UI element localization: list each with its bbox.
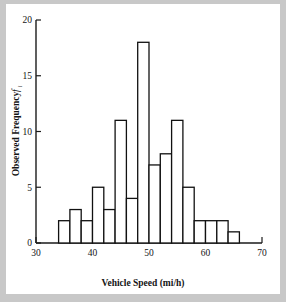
histogram-bars: [59, 42, 240, 243]
x-tick-label: 50: [144, 248, 154, 258]
x-axis-tick-labels: 3040506070: [31, 248, 267, 258]
y-axis-ticks: [36, 20, 41, 243]
histogram-bar: [194, 221, 205, 243]
figure-panel: 05101520 3040506070 Vehicle Speed (mi/h)…: [6, 4, 280, 294]
histogram-bar: [126, 198, 137, 243]
histogram-bar: [81, 221, 92, 243]
histogram-bar: [138, 42, 149, 243]
y-tick-label: 10: [23, 127, 33, 137]
y-tick-label: 20: [23, 15, 33, 25]
histogram-bar: [183, 187, 194, 243]
y-tick-label: 15: [23, 71, 33, 81]
histogram-bar: [217, 221, 228, 243]
x-tick-label: 70: [257, 248, 267, 258]
histogram-bar: [228, 232, 239, 243]
histogram-bar: [172, 120, 183, 243]
y-axis-title: Observed Frequency: [11, 91, 21, 176]
x-tick-label: 30: [31, 248, 41, 258]
histogram-bar: [115, 120, 126, 243]
x-tick-label: 60: [201, 248, 211, 258]
y-axis-title-symbol: f: [11, 88, 21, 92]
histogram-bar: [93, 187, 104, 243]
histogram-chart: 05101520 3040506070 Vehicle Speed (mi/h)…: [6, 4, 280, 294]
x-axis-title: Vehicle Speed (mi/h): [101, 278, 184, 289]
y-tick-label: 5: [27, 183, 32, 193]
y-axis-title-symbol-subscript: i: [16, 86, 24, 88]
y-tick-label: 0: [27, 238, 32, 248]
x-tick-label: 40: [88, 248, 98, 258]
histogram-bar: [160, 154, 171, 243]
y-axis-tick-labels: 05101520: [23, 15, 33, 248]
histogram-bar: [104, 210, 115, 243]
histogram-bar: [59, 221, 70, 243]
chart-svg: 05101520 3040506070 Vehicle Speed (mi/h)…: [6, 4, 280, 294]
histogram-bar: [206, 221, 217, 243]
histogram-bar: [149, 165, 160, 243]
histogram-bar: [70, 210, 81, 243]
